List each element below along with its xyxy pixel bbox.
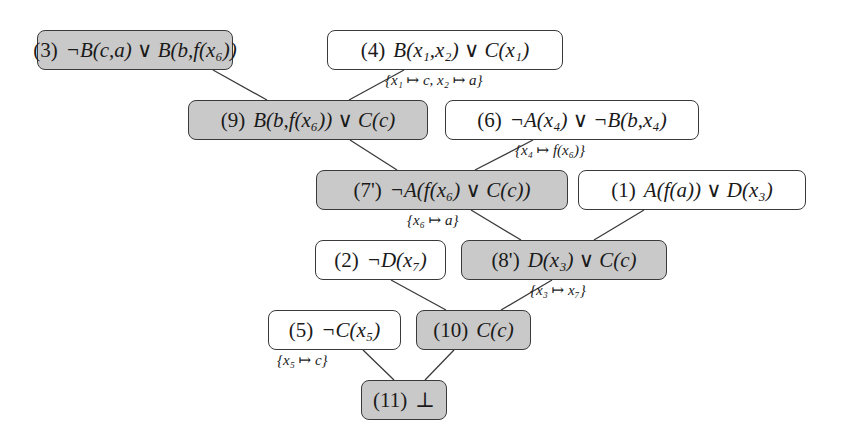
clause-formula: A(f(a)) ∨ D(x₃)	[644, 178, 773, 203]
edge-10-11	[425, 350, 454, 380]
edge-5-11	[363, 350, 394, 380]
substitution-label-5-11: {x₅ ↦ c}	[277, 351, 328, 369]
clause-node-7prime[interactable]: (7') ¬A(f(x₆) ∨ C(c))	[316, 170, 568, 210]
clause-node-11-empty[interactable]: (11) ⊥	[361, 380, 447, 420]
clause-id: (11)	[373, 388, 407, 413]
clause-id: (2)	[334, 248, 359, 273]
clause-node-5[interactable]: (5) ¬C(x₅)	[268, 310, 401, 350]
clause-id: (7')	[354, 178, 382, 203]
clause-id: (1)	[611, 178, 636, 203]
clause-id: (10)	[433, 318, 468, 343]
clause-formula: ¬C(x₅)	[321, 318, 380, 343]
clause-node-1[interactable]: (1) A(f(a)) ∨ D(x₃)	[578, 170, 806, 210]
clause-formula: ⊥	[415, 388, 435, 413]
clause-node-2[interactable]: (2) ¬D(x₇)	[315, 240, 446, 280]
substitution-label-6-7: {x₄ ↦ f(x₆)}	[515, 141, 585, 159]
edge-2-10	[391, 280, 446, 310]
substitution-label-8-10: {x₃ ↦ x₇}	[530, 281, 586, 299]
clause-formula: ¬B(c,a) ∨ B(b,f(x₆))	[66, 38, 237, 63]
edge-3-9	[213, 70, 267, 100]
clause-id: (4)	[361, 38, 386, 63]
clause-node-3[interactable]: (3) ¬B(c,a) ∨ B(b,f(x₆))	[37, 30, 233, 70]
clause-node-6[interactable]: (6) ¬A(x₄) ∨ ¬B(b,x₄)	[445, 100, 699, 140]
clause-id: (6)	[477, 108, 502, 133]
clause-node-4[interactable]: (4) B(x₁,x₂) ∨ C(x₁)	[327, 30, 563, 70]
clause-node-10[interactable]: (10) C(c)	[416, 310, 531, 350]
clause-id: (8')	[491, 248, 519, 273]
clause-formula: C(c)	[476, 318, 513, 343]
clause-formula: D(x₃) ∨ C(c)	[528, 248, 637, 273]
edge-7-8	[471, 210, 521, 240]
clause-formula: ¬A(x₄) ∨ ¬B(b,x₄)	[510, 108, 667, 133]
clause-formula: B(x₁,x₂) ∨ C(x₁)	[393, 38, 529, 63]
clause-formula: ¬A(f(x₆) ∨ C(c))	[390, 178, 531, 203]
clause-id: (5)	[289, 318, 314, 343]
substitution-label-4-9: {x₁ ↦ c, x₂ ↦ a}	[385, 71, 483, 89]
edge-9-7	[350, 140, 397, 170]
clause-node-9[interactable]: (9) B(b,f(x₆)) ∨ C(c)	[188, 100, 428, 140]
clause-formula: ¬D(x₇)	[367, 248, 427, 273]
clause-node-8prime[interactable]: (8') D(x₃) ∨ C(c)	[461, 240, 667, 280]
substitution-label-7-8: {x₆ ↦ a}	[407, 211, 458, 229]
edge-1-8	[594, 210, 644, 240]
clause-id: (9)	[221, 108, 246, 133]
clause-id: (3)	[33, 38, 58, 63]
clause-formula: B(b,f(x₆)) ∨ C(c)	[253, 108, 395, 133]
